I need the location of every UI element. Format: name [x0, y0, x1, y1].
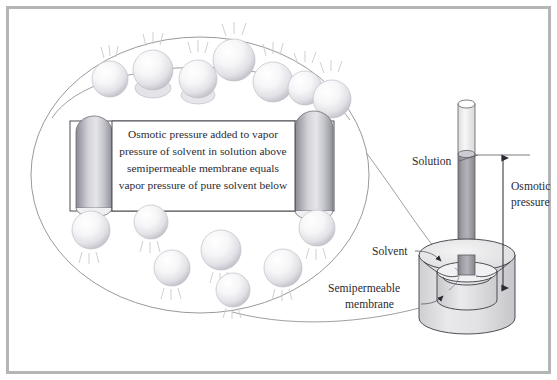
- callout-line-3: semipermeable membrane equals: [127, 162, 279, 174]
- callout-line-4: vapor pressure of pure solvent below: [119, 179, 288, 191]
- label-membrane-line1: Semipermeable: [328, 282, 400, 295]
- beaker-assembly: [419, 239, 515, 334]
- label-osmotic-pressure-line2: pressure: [511, 196, 550, 209]
- tube-open-top: [458, 100, 475, 108]
- label-membrane-line2: membrane: [345, 298, 394, 311]
- label-solvent: Solvent: [372, 245, 408, 258]
- label-solution: Solution: [412, 155, 452, 168]
- osmotic-pressure-figure: Osmotic pressure added to vapor pressure…: [0, 0, 557, 380]
- tube-immersed-section: [458, 255, 475, 275]
- callout-line-2: pressure of solvent in solution above: [119, 145, 286, 157]
- membrane-post-left: [76, 116, 112, 217]
- diagram-canvas: Osmotic pressure added to vapor pressure…: [0, 0, 557, 380]
- tube-empty-section: [458, 104, 475, 154]
- membrane-post-right: [295, 111, 333, 220]
- label-osmotic-pressure-line1: Osmotic: [511, 180, 550, 193]
- callout-line-1: Osmotic pressure added to vapor: [128, 128, 278, 140]
